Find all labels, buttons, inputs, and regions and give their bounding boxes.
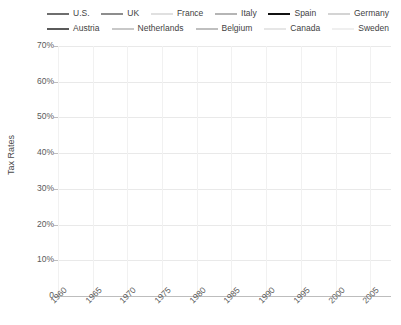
y-tick-label: 20% xyxy=(2,220,54,229)
tax-rates-line-chart: U.S.UKFranceItalySpainGermanyAustriaNeth… xyxy=(0,0,401,325)
gridline-vertical xyxy=(301,46,302,296)
gridline-vertical xyxy=(93,46,94,296)
gridline-vertical xyxy=(370,46,371,296)
legend-label: Netherlands xyxy=(138,24,184,33)
legend-label: UK xyxy=(127,9,139,18)
legend-swatch-icon xyxy=(332,28,354,30)
gridline-vertical xyxy=(162,46,163,296)
legend-swatch-icon xyxy=(328,13,350,15)
chart-legend: U.S.UKFranceItalySpainGermanyAustriaNeth… xyxy=(0,6,401,38)
plot-background xyxy=(58,46,391,296)
legend-item-belgium[interactable]: Belgium xyxy=(196,24,253,33)
plot-area xyxy=(58,46,391,296)
legend-swatch-icon xyxy=(268,13,290,15)
legend-item-austria[interactable]: Austria xyxy=(47,24,99,33)
legend-label: Belgium xyxy=(222,24,253,33)
y-tick-label: 10% xyxy=(2,255,54,264)
legend-item-sweden[interactable]: Sweden xyxy=(332,24,389,33)
legend-label: Spain xyxy=(294,9,316,18)
legend-row: AustriaNetherlandsBelgiumCanadaSweden xyxy=(0,21,401,36)
gridline-horizontal xyxy=(58,260,391,261)
legend-item-uk[interactable]: UK xyxy=(101,9,139,18)
legend-item-spain[interactable]: Spain xyxy=(268,9,316,18)
y-tick-label: 70% xyxy=(2,41,54,50)
gridline-horizontal xyxy=(58,46,391,47)
gridline-horizontal xyxy=(58,225,391,226)
y-tick-label: 60% xyxy=(2,77,54,86)
legend-swatch-icon xyxy=(151,13,173,15)
legend-row: U.S.UKFranceItalySpainGermany xyxy=(0,6,401,21)
legend-label: Italy xyxy=(241,9,257,18)
legend-swatch-icon xyxy=(196,28,218,30)
x-axis-labels: 1960196519701975198019851990199520002005 xyxy=(58,299,401,325)
legend-item-canada[interactable]: Canada xyxy=(264,24,320,33)
legend-item-netherlands[interactable]: Netherlands xyxy=(112,24,184,33)
legend-swatch-icon xyxy=(215,13,237,15)
legend-label: Austria xyxy=(73,24,99,33)
gridline-vertical xyxy=(127,46,128,296)
legend-label: Sweden xyxy=(358,24,389,33)
legend-swatch-icon xyxy=(101,13,123,15)
legend-label: France xyxy=(177,9,203,18)
gridline-vertical xyxy=(231,46,232,296)
legend-swatch-icon xyxy=(264,28,286,30)
y-axis-title: Tax Rates xyxy=(6,115,16,195)
gridline-horizontal xyxy=(58,82,391,83)
gridline-horizontal xyxy=(58,117,391,118)
legend-label: Canada xyxy=(290,24,320,33)
legend-swatch-icon xyxy=(112,28,134,30)
legend-label: Germany xyxy=(354,9,389,18)
legend-item-france[interactable]: France xyxy=(151,9,203,18)
gridline-vertical xyxy=(197,46,198,296)
gridline-horizontal xyxy=(58,153,391,154)
gridline-vertical xyxy=(336,46,337,296)
legend-item-germany[interactable]: Germany xyxy=(328,9,389,18)
gridline-vertical xyxy=(266,46,267,296)
y-tick-label: 0 xyxy=(2,291,54,300)
legend-item-italy[interactable]: Italy xyxy=(215,9,257,18)
gridline-vertical xyxy=(58,46,59,296)
legend-label: U.S. xyxy=(73,9,90,18)
gridline-horizontal xyxy=(58,189,391,190)
